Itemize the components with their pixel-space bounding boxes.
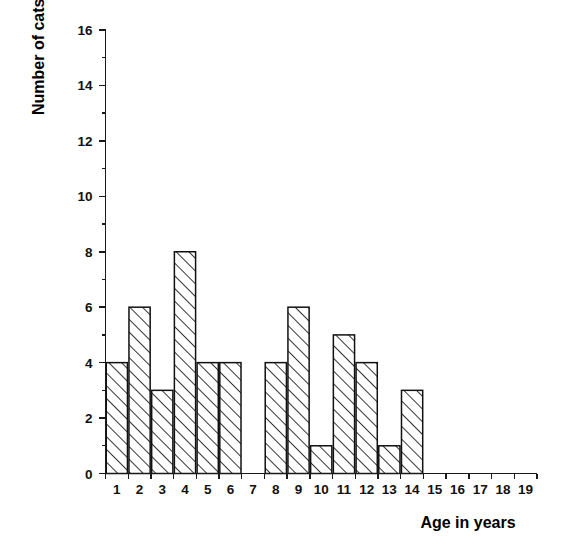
x-tick-label: 11 [337, 482, 352, 497]
bar [288, 307, 309, 473]
x-axis-title: Age in years [420, 514, 515, 531]
bar [265, 363, 286, 474]
y-axis-title: Number of cats [30, 0, 47, 115]
histogram-chart: 0246810121416 12345678910111213141516171… [0, 0, 579, 544]
x-tick-label: 16 [450, 482, 466, 497]
x-tick-label: 14 [405, 482, 421, 497]
bar [333, 335, 354, 474]
y-tick-label: 14 [77, 78, 93, 93]
x-tick-label: 5 [204, 482, 212, 497]
x-tick-label: 8 [272, 482, 280, 497]
y-tick-label: 2 [85, 411, 93, 426]
y-tick-label: 12 [77, 134, 92, 149]
y-tick-label: 8 [85, 245, 93, 260]
bar [197, 363, 218, 474]
y-tick-label: 4 [85, 356, 93, 371]
y-tick-label: 0 [85, 467, 93, 482]
x-tick-label: 18 [495, 482, 511, 497]
bar [174, 252, 195, 474]
y-tick-label: 10 [77, 189, 92, 204]
x-tick-label: 17 [473, 482, 488, 497]
x-tick-label: 3 [159, 482, 167, 497]
x-tick-label: 4 [181, 482, 189, 497]
x-tick-label: 6 [227, 482, 235, 497]
bar [311, 446, 332, 474]
y-tick-label: 6 [85, 300, 93, 315]
x-tick-label: 13 [382, 482, 398, 497]
bar [220, 363, 241, 474]
x-tick-label: 12 [359, 482, 374, 497]
bar [106, 363, 127, 474]
x-tick-label: 1 [113, 482, 121, 497]
bar [152, 390, 173, 473]
x-tick-label: 2 [136, 482, 144, 497]
bar [379, 446, 400, 474]
bar [129, 307, 150, 473]
x-tick-label: 15 [427, 482, 443, 497]
y-tick-label: 16 [77, 23, 93, 38]
bar [356, 363, 377, 474]
bar [401, 390, 422, 473]
x-tick-label: 7 [249, 482, 257, 497]
chart-canvas: 0246810121416 12345678910111213141516171… [0, 0, 579, 544]
x-tick-label: 10 [314, 482, 329, 497]
x-tick-label: 9 [295, 482, 303, 497]
x-tick-label: 19 [518, 482, 533, 497]
